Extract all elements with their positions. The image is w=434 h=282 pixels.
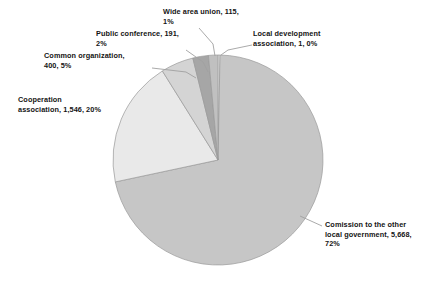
leader-line-local-development-association bbox=[221, 45, 252, 55]
pie-label-wide-area-union: Wide area union, 115, 1% bbox=[163, 7, 283, 26]
pie-label-public-conference: Public conference, 191, 2% bbox=[96, 29, 221, 48]
pie-label-cooperation-association: Cooperation association, 1,546, 20% bbox=[18, 95, 138, 114]
pie-label-comission-other-local-government: Comission to the other local government,… bbox=[325, 220, 434, 249]
pie-slice-group bbox=[113, 55, 323, 265]
pie-label-local-development-association: Local development association, 1, 0% bbox=[253, 29, 378, 48]
pie-label-common-organization: Common organization, 400, 5% bbox=[44, 51, 172, 70]
pie-chart: Wide area union, 115, 1% Public conferen… bbox=[0, 0, 434, 282]
